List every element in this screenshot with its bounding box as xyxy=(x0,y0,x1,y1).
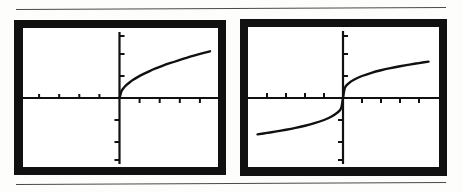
bottom-horizontal-rule xyxy=(16,182,446,185)
top-horizontal-rule xyxy=(16,7,446,10)
screen-viewport-left xyxy=(23,28,218,167)
square-root-curve xyxy=(119,51,209,98)
figure-page xyxy=(0,0,463,192)
cube-root-plot xyxy=(248,27,439,167)
screen-viewport-right xyxy=(248,27,439,167)
calculator-screen-right xyxy=(240,19,447,176)
square-root-plot xyxy=(23,28,218,167)
calculator-screen-left xyxy=(14,20,226,175)
